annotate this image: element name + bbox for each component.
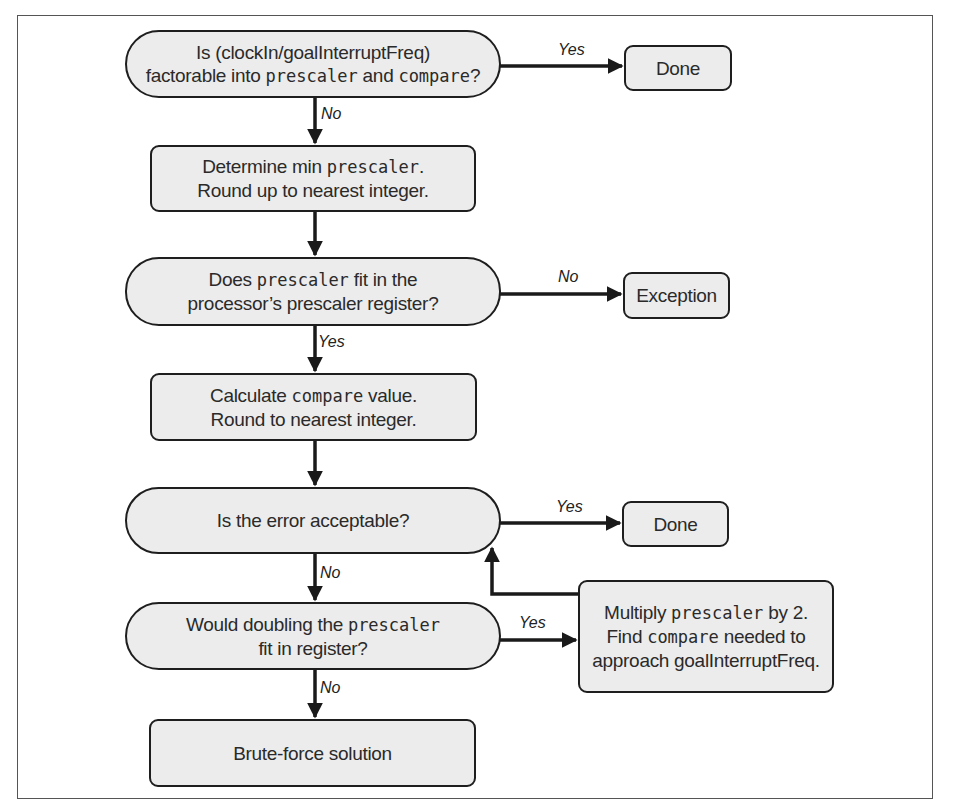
- edge-label-no: No: [320, 679, 340, 697]
- terminal-done-2: Done: [622, 501, 729, 547]
- edge-label-yes: Yes: [318, 333, 345, 351]
- terminal-done-1: Done: [624, 45, 732, 91]
- decision-prescaler-fits: Does prescaler fit in the processor’s pr…: [125, 257, 501, 326]
- terminal-exception: Exception: [623, 272, 730, 319]
- edge-label-yes: Yes: [519, 614, 546, 632]
- edge-label-yes: Yes: [556, 498, 583, 516]
- process-min-prescaler: Determine min prescaler. Round up to nea…: [150, 145, 476, 212]
- decision-factorable: Is (clockIn/goalInterruptFreq) factorabl…: [125, 30, 501, 98]
- edge-label-no: No: [320, 564, 340, 582]
- edge-label-yes: Yes: [558, 41, 585, 59]
- edge-label-no: No: [321, 105, 341, 123]
- decision-doubling-fits: Would doubling the prescaler fit in regi…: [125, 602, 501, 670]
- process-brute-force: Brute-force solution: [149, 719, 476, 787]
- decision-error-acceptable: Is the error acceptable?: [125, 487, 501, 554]
- edge-label-no: No: [558, 268, 578, 286]
- edge-p3-d3: [492, 548, 578, 594]
- process-calculate-compare: Calculate compare value. Round to neares…: [150, 373, 477, 441]
- process-multiply-prescaler: Multiply prescaler by 2. Find compare ne…: [578, 580, 834, 693]
